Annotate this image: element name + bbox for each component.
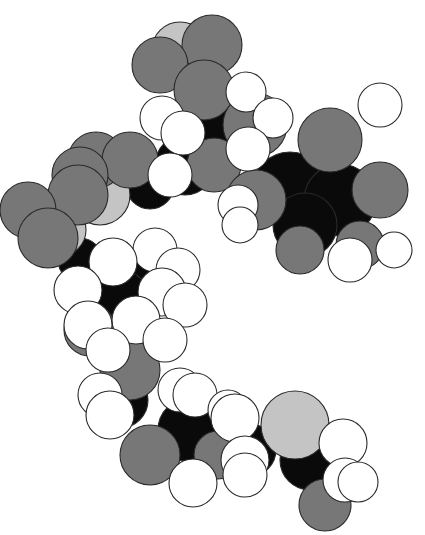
- molecular-model-figure: [0, 0, 425, 535]
- hydrogen-atom: [223, 453, 267, 497]
- sulfur-atom: [261, 391, 329, 459]
- hydrogen-atom: [226, 127, 270, 171]
- hydrogen-atom: [86, 391, 134, 439]
- hydrogen-atom: [222, 207, 258, 243]
- hydrogen-atom: [86, 328, 130, 372]
- oxygen-atom: [352, 162, 408, 218]
- oxygen-atom: [18, 208, 78, 268]
- hydrogen-atom: [148, 153, 192, 197]
- hydrogen-atom: [143, 318, 187, 362]
- hydrogen-atom: [358, 83, 402, 127]
- hydrogen-atom: [169, 459, 217, 507]
- hydrogen-atom: [211, 394, 259, 442]
- space-filling-molecule: [0, 0, 425, 535]
- oxygen-atom: [276, 226, 324, 274]
- hydrogen-atom: [338, 462, 378, 502]
- atom-layer: [0, 15, 412, 531]
- oxygen-atom: [298, 108, 362, 172]
- hydrogen-atom: [376, 232, 412, 268]
- hydrogen-atom: [161, 111, 205, 155]
- hydrogen-atom: [328, 238, 372, 282]
